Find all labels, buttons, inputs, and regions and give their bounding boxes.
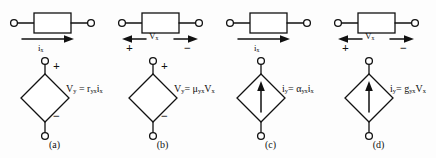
caption-d: (d) [324,139,433,150]
source-minus-sign-a: − [53,110,60,122]
equation-b: Vy= μyxVx [174,84,215,95]
control-voltage-label-b: Vx [149,32,158,42]
equation-a: Vy = ryxix [66,84,103,95]
vx-minus-sign-d: − [400,42,407,54]
panel-d: Vx + − iy= gyxVx (d) [324,0,433,158]
caption-c: (c) [216,139,325,150]
dependent-sources-figure: ix + − Vy = ryxix (a) [0,0,436,158]
caption-a: (a) [0,139,109,150]
control-current-label-a: ix [38,44,43,54]
caption-b: (b) [108,139,217,150]
panel-b: Vx + − + − Vy= μyxVx (b) [108,0,217,158]
panel-c-circuit [216,0,325,158]
source-plus-sign-a: + [53,60,60,72]
panel-d-circuit [324,0,436,158]
vx-plus-sign-b: + [126,42,133,54]
panel-b-circuit [108,0,217,158]
panel-c: ix iy= αyxix (c) [216,0,325,158]
panel-a-circuit [0,0,109,158]
current-arrowhead [64,35,74,43]
control-current-label-c: ix [254,44,259,54]
vx-plus-sign-d: + [342,42,349,54]
equation-d: iy= gyxVx [390,84,426,95]
control-voltage-label-d: Vx [365,32,374,42]
equation-c: iy= αyxix [282,84,314,95]
source-minus-sign-b: − [161,110,168,122]
vx-minus-sign-b: − [184,42,191,54]
current-arrowhead [280,35,290,43]
panel-a: ix + − Vy = ryxix (a) [0,0,109,158]
source-plus-sign-b: + [161,60,168,72]
